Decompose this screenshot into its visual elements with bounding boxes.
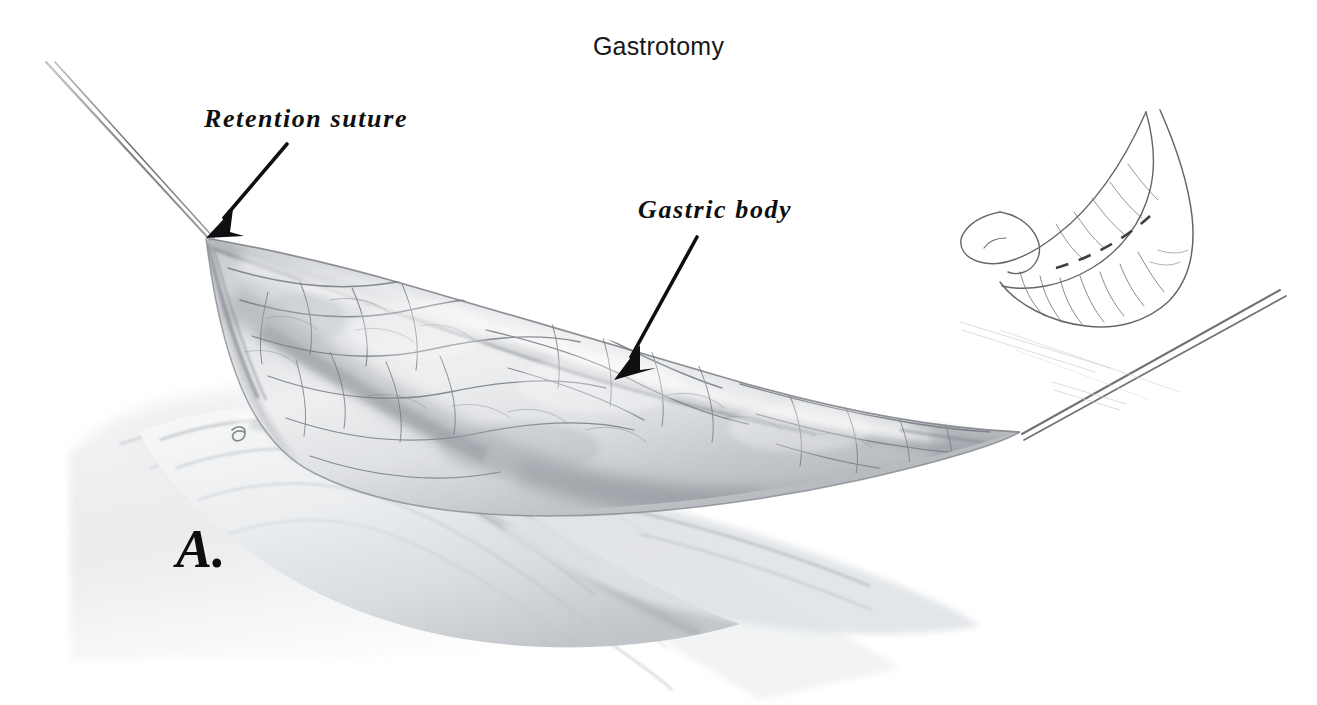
label-retention-suture: Retention suture [204, 104, 408, 134]
retention-suture-arrow [206, 144, 287, 238]
gastrotomy-figure: Gastrotomy Retention suture Gastric body… [0, 0, 1317, 705]
gastric-body-tented-wall [206, 238, 1020, 516]
label-gastric-body: Gastric body [638, 195, 792, 225]
illustration-canvas [0, 0, 1317, 705]
panel-letter: A. [176, 518, 226, 580]
orientation-inset [960, 110, 1193, 410]
left-retention-suture-strand [46, 62, 214, 240]
page-title: Gastrotomy [0, 32, 1317, 61]
right-retention-suture-strand [1000, 290, 1286, 440]
